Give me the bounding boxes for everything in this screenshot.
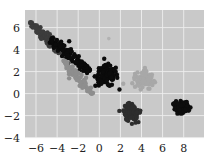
data-point — [73, 72, 77, 76]
y-tick-label: −2 — [4, 110, 20, 123]
data-point — [124, 118, 128, 122]
data-point — [79, 59, 83, 63]
data-point — [65, 53, 69, 57]
data-point — [117, 87, 121, 91]
data-point — [171, 102, 175, 106]
data-point — [130, 81, 134, 85]
data-point — [133, 120, 137, 124]
data-point — [78, 80, 82, 84]
data-point — [135, 110, 139, 114]
data-point — [53, 42, 57, 46]
data-point — [50, 40, 54, 44]
data-point — [97, 66, 101, 70]
y-axis-ticks: −4−20246 — [4, 22, 20, 145]
y-tick-label: −4 — [4, 132, 20, 145]
data-point — [85, 69, 89, 73]
data-point — [99, 82, 103, 86]
x-tick-label: 8 — [180, 142, 187, 155]
data-point — [34, 30, 38, 34]
data-point — [77, 54, 81, 58]
data-point — [77, 84, 81, 88]
x-tick-label: 4 — [138, 142, 145, 155]
data-point — [113, 69, 117, 73]
data-point — [177, 108, 181, 112]
data-point — [35, 23, 39, 27]
y-tick-label: 0 — [13, 88, 20, 101]
data-point — [183, 107, 187, 111]
data-point — [93, 84, 97, 88]
data-point — [102, 64, 106, 68]
data-point — [82, 79, 86, 83]
data-point — [141, 79, 145, 83]
data-point — [110, 83, 114, 87]
data-point — [101, 70, 105, 74]
data-point — [71, 55, 75, 59]
data-point — [89, 90, 93, 94]
data-point — [179, 103, 183, 107]
x-tick-label: 6 — [159, 142, 166, 155]
y-tick-label: 2 — [13, 66, 20, 79]
x-tick-label: −2 — [70, 142, 86, 155]
data-point — [146, 78, 150, 82]
data-point — [67, 39, 71, 43]
data-point — [44, 31, 48, 35]
data-point — [128, 116, 132, 120]
x-tick-label: 2 — [117, 142, 124, 155]
x-tick-label: −4 — [49, 142, 65, 155]
x-axis-ticks: −6−4−202468 — [28, 142, 187, 155]
data-point — [67, 76, 71, 80]
data-point — [107, 71, 111, 75]
data-point — [142, 72, 146, 76]
data-point — [147, 86, 151, 90]
data-point — [39, 37, 43, 41]
data-point — [126, 101, 130, 105]
data-point — [56, 49, 60, 53]
data-point — [117, 109, 121, 113]
data-point — [60, 48, 64, 52]
x-tick-label: −6 — [28, 142, 44, 155]
data-point — [134, 116, 138, 120]
data-point — [55, 38, 59, 42]
x-tick-label: 0 — [96, 142, 103, 155]
data-point — [96, 73, 100, 77]
data-point — [135, 70, 139, 74]
scatter-chart: −6−4−202468 −4−20246 — [0, 0, 208, 158]
data-point — [74, 60, 78, 64]
data-point — [28, 20, 32, 24]
data-point — [105, 78, 109, 82]
data-point — [102, 57, 106, 61]
data-point — [130, 106, 134, 110]
data-point — [68, 65, 72, 69]
data-point — [85, 88, 89, 92]
data-point — [109, 75, 113, 79]
y-tick-label: 6 — [13, 22, 20, 35]
data-point — [64, 63, 68, 67]
data-point — [107, 37, 111, 41]
data-point — [121, 82, 125, 86]
y-tick-label: 4 — [13, 44, 20, 57]
data-point — [121, 108, 125, 112]
data-point — [132, 77, 136, 81]
